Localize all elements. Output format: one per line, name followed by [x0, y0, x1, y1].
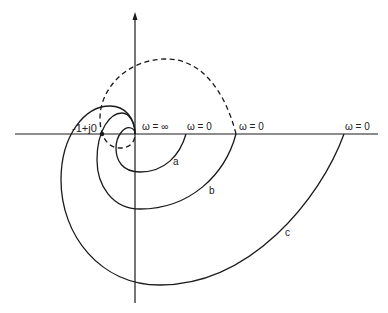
critical-point-label: -1+j0	[72, 122, 97, 134]
curve-c-label: c	[285, 227, 290, 238]
curve-b-label: b	[209, 185, 215, 196]
critical-point-marker	[100, 132, 104, 136]
nyquist-diagram: -1+j0 ω = ∞ ω = 0 ω = 0 ω = 0 a b c	[0, 0, 388, 313]
curve-b-omega-zero-label: ω = 0	[239, 121, 264, 132]
omega-infinity-label: ω = ∞	[142, 121, 168, 132]
curve-c-omega-zero-label: ω = 0	[345, 121, 370, 132]
dashed-curve	[100, 59, 236, 148]
imaginary-axis-arrow-icon	[133, 12, 138, 20]
curve-a-label: a	[173, 156, 179, 167]
curve-a-omega-zero-label: ω = 0	[187, 121, 212, 132]
